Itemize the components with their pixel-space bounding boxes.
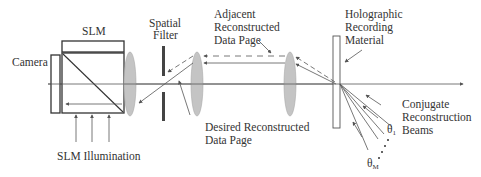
spatial-filter-label: Spatial Filter xyxy=(149,17,184,41)
desired-page-ray xyxy=(296,64,336,84)
conjugate-beam xyxy=(340,84,368,150)
desired-page-pointer xyxy=(179,81,190,115)
ellipsis-dot xyxy=(384,145,386,147)
holographic-material-label: Holographic Recording Material xyxy=(345,8,405,46)
ellipsis-dot xyxy=(387,139,389,141)
conjugate-beam xyxy=(340,84,384,134)
ellipsis-dot xyxy=(378,157,380,159)
slm-illumination-label: SLM Illumination xyxy=(57,150,141,162)
slm xyxy=(62,41,124,52)
spatial-filter-upper xyxy=(162,46,165,76)
material-pointer xyxy=(345,50,362,62)
conjugate-beams-label: Conjugate Reconstruction Beams xyxy=(402,98,475,136)
adjacent-page-ray xyxy=(168,56,193,72)
slm-label: SLM xyxy=(82,25,106,37)
adjacent-page-ray xyxy=(296,57,335,82)
adjacent-page-label: Adjacent Reconstructed Data Page xyxy=(214,8,283,47)
holographic-material xyxy=(333,36,340,128)
optical-diagram: SLM Camera Spatial Filter Adjacent Recon… xyxy=(0,0,481,177)
theta-m-label: θM xyxy=(367,157,380,171)
spatial-filter-lower xyxy=(162,92,165,121)
conjugate-beam xyxy=(340,84,392,127)
conjugate-beam-arrow xyxy=(366,95,381,105)
desired-page-label: Desired Reconstructed Data Page xyxy=(205,121,312,147)
desired-page-ray xyxy=(139,63,193,103)
camera-label: Camera xyxy=(12,56,48,68)
conjugate-beam xyxy=(340,84,378,139)
conjugate-beam-arrow xyxy=(363,106,378,118)
ellipsis-dot xyxy=(381,151,383,153)
theta-1-label: θ1 xyxy=(387,123,397,137)
